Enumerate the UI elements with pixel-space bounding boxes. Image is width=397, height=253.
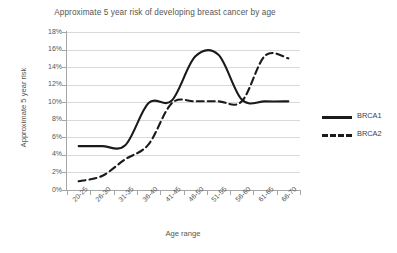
x-axis-title: Age range	[103, 229, 263, 238]
x-axis-tick-mark	[277, 191, 278, 195]
x-axis-tick-mark	[137, 191, 138, 195]
series-line-brca2	[79, 53, 289, 181]
y-axis-tick-label: 4%	[36, 150, 62, 157]
legend-label: BRCA1	[357, 111, 382, 120]
legend-swatch-brca2	[322, 134, 352, 137]
plot-area	[67, 32, 300, 190]
y-axis-tick-label: 10%	[36, 98, 62, 105]
x-axis-tick-mark	[184, 191, 185, 195]
legend-swatch-brca1	[322, 116, 352, 119]
legend-label: BRCA2	[357, 129, 382, 138]
y-axis-tick-label: 12%	[36, 80, 62, 87]
x-axis-tick-mark	[114, 191, 115, 195]
chart-title: Approximate 5 year risk of developing br…	[0, 8, 330, 17]
y-axis-tick-label: 18%	[36, 28, 62, 35]
x-axis-tick-mark	[90, 191, 91, 195]
y-axis-tick-label: 0%	[36, 186, 62, 193]
y-axis-tick-label: 2%	[36, 168, 62, 175]
y-axis-tick-label: 14%	[36, 63, 62, 70]
chart-container: Approximate 5 year risk of developing br…	[0, 0, 397, 253]
series-line-brca1	[79, 50, 289, 149]
y-axis-tick-label: 8%	[36, 115, 62, 122]
y-axis-tick-label: 6%	[36, 133, 62, 140]
y-axis-title: Approximate 5 year risk	[19, 38, 28, 178]
x-axis-tick-mark	[253, 191, 254, 195]
x-axis-tick-mark	[300, 191, 301, 195]
x-axis-tick-mark	[160, 191, 161, 195]
y-axis-tick-label: 16%	[36, 45, 62, 52]
x-axis-tick-mark	[67, 191, 68, 195]
x-axis-tick-mark	[230, 191, 231, 195]
x-axis-tick-mark	[207, 191, 208, 195]
